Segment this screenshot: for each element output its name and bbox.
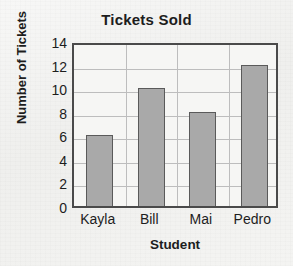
bar-mai: [189, 112, 216, 206]
chart-title: Tickets Sold: [0, 11, 293, 28]
y-tick-label: 12: [34, 60, 67, 74]
bars-layer: [74, 45, 276, 206]
y-tick-label: 10: [34, 83, 67, 97]
y-tick-label: 14: [34, 36, 67, 50]
x-axis-title: Student: [72, 237, 278, 252]
x-tick-label: Kayla: [80, 212, 115, 226]
x-tick-label: Pedro: [234, 212, 271, 226]
x-tick-label: Mai: [189, 212, 212, 226]
bar-pedro: [241, 65, 268, 206]
y-axis-tick-labels: 02468101214: [34, 43, 67, 208]
y-tick-label: 2: [34, 177, 67, 191]
plot-area: [72, 43, 278, 208]
bar-kayla: [86, 135, 113, 206]
bar-bill: [138, 88, 165, 206]
y-tick-label: 6: [34, 130, 67, 144]
y-tick-label: 8: [34, 107, 67, 121]
y-axis-title: Number of Tickets: [14, 0, 29, 143]
x-axis-tick-labels: KaylaBillMaiPedro: [72, 212, 278, 234]
bar-chart-screenshot: Tickets Sold Number of Tickets 024681012…: [0, 0, 293, 266]
y-tick-label: 0: [34, 201, 67, 215]
x-tick-label: Bill: [140, 212, 159, 226]
y-tick-label: 4: [34, 154, 67, 168]
